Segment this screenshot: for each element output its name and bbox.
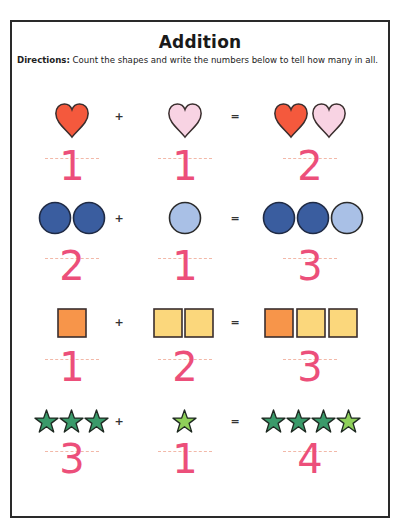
problem-row-stars: + = 3 1 4 xyxy=(12,409,392,509)
star-icon xyxy=(311,409,336,433)
directions: Directions: Count the shapes and write t… xyxy=(17,55,382,66)
sum-answer: 4 xyxy=(283,441,337,485)
heart-icon xyxy=(166,102,204,140)
answer-number: 1 xyxy=(45,343,99,391)
middle-answer: 1 xyxy=(158,148,212,192)
sum-shapes xyxy=(272,102,348,140)
sum-shapes xyxy=(261,409,361,433)
worksheet-title: Addition xyxy=(12,32,388,52)
circle-icon xyxy=(296,201,330,235)
plus-sign: + xyxy=(113,110,125,123)
left-answer: 1 xyxy=(45,148,99,192)
middle-answer: 1 xyxy=(158,248,212,292)
answer-number: 3 xyxy=(283,343,337,391)
plus-sign: + xyxy=(113,212,125,225)
equals-sign: = xyxy=(229,415,241,428)
middle-shapes xyxy=(172,409,197,433)
equals-sign: = xyxy=(229,316,241,329)
answer-number: 2 xyxy=(45,242,99,290)
answer-number: 1 xyxy=(158,242,212,290)
heart-icon xyxy=(272,102,310,140)
left-answer: 1 xyxy=(45,349,99,393)
directions-label: Directions: xyxy=(17,55,70,65)
square-icon xyxy=(57,308,87,338)
answer-number: 2 xyxy=(283,142,337,190)
circle-icon xyxy=(38,201,72,235)
left-shapes xyxy=(52,102,92,140)
sum-shapes xyxy=(262,201,364,235)
circle-icon xyxy=(262,201,296,235)
left-answer: 3 xyxy=(45,441,99,485)
square-icon xyxy=(184,308,215,338)
answer-number: 2 xyxy=(158,343,212,391)
middle-answer: 1 xyxy=(158,441,212,485)
problem-row-circles: + = 2 1 3 xyxy=(12,201,392,301)
star-icon xyxy=(336,409,361,433)
square-icon xyxy=(296,308,328,338)
circle-icon xyxy=(72,201,106,235)
problem-row-squares: + = 1 2 3 xyxy=(12,307,392,407)
answer-number: 1 xyxy=(45,142,99,190)
circle-icon xyxy=(330,201,364,235)
star-icon xyxy=(34,409,59,433)
heart-icon xyxy=(310,102,348,140)
star-icon xyxy=(172,409,197,433)
square-icon xyxy=(328,308,360,338)
answer-number: 1 xyxy=(158,435,212,483)
left-shapes xyxy=(38,201,106,235)
star-icon xyxy=(286,409,311,433)
heart-icon xyxy=(53,102,91,140)
middle-shapes xyxy=(153,308,215,338)
middle-shapes xyxy=(168,201,202,235)
sum-answer: 2 xyxy=(283,148,337,192)
answer-number: 3 xyxy=(45,435,99,483)
plus-sign: + xyxy=(113,316,125,329)
middle-shapes xyxy=(165,102,205,140)
sum-shapes xyxy=(264,308,360,338)
problem-row-hearts: + = 1 1 2 xyxy=(12,100,392,200)
star-icon xyxy=(84,409,109,433)
sum-answer: 3 xyxy=(283,349,337,393)
equals-sign: = xyxy=(229,110,241,123)
directions-text: Count the shapes and write the numbers b… xyxy=(70,55,378,65)
left-shapes xyxy=(34,409,109,433)
sum-answer: 3 xyxy=(283,248,337,292)
answer-number: 4 xyxy=(283,435,337,483)
left-shapes xyxy=(57,308,87,338)
middle-answer: 2 xyxy=(158,349,212,393)
star-icon xyxy=(59,409,84,433)
square-icon xyxy=(264,308,296,338)
answer-number: 3 xyxy=(283,242,337,290)
circle-icon xyxy=(168,201,202,235)
worksheet: Addition Directions: Count the shapes an… xyxy=(10,20,390,518)
left-answer: 2 xyxy=(45,248,99,292)
equals-sign: = xyxy=(229,212,241,225)
square-icon xyxy=(153,308,184,338)
plus-sign: + xyxy=(113,415,125,428)
answer-number: 1 xyxy=(158,142,212,190)
star-icon xyxy=(261,409,286,433)
